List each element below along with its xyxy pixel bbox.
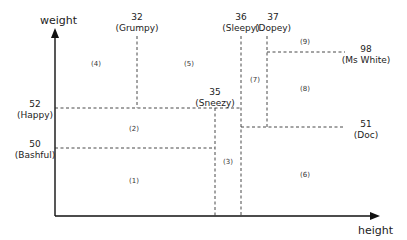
split-label-happy: 52 (Happy) — [17, 99, 53, 121]
kd-tree-diagram — [0, 0, 407, 240]
region-1: (1) — [129, 177, 139, 185]
region-8: (8) — [300, 85, 310, 93]
split-label-sneezy: 35 (Sneezy) — [195, 87, 235, 109]
y-axis-label: weight — [40, 14, 77, 27]
split-label-doc: 51 (Doc) — [354, 119, 378, 141]
y-axis-arrow-icon — [51, 28, 59, 38]
region-5: (5) — [184, 60, 194, 68]
split-label-dopey: 37 (Dopey) — [255, 12, 291, 34]
split-label-bashful: 50 (Bashful) — [15, 139, 55, 161]
region-9: (9) — [300, 38, 310, 46]
region-4: (4) — [91, 60, 101, 68]
x-axis-arrow-icon — [370, 212, 380, 220]
region-3: (3) — [223, 158, 233, 166]
region-7: (7) — [250, 76, 260, 84]
split-label-grumpy: 32 (Grumpy) — [115, 12, 158, 34]
split-label-ms-white: 98 (Ms White) — [342, 44, 391, 66]
x-axis-label: height — [358, 224, 393, 237]
region-6: (6) — [300, 171, 310, 179]
region-2: (2) — [129, 125, 139, 133]
